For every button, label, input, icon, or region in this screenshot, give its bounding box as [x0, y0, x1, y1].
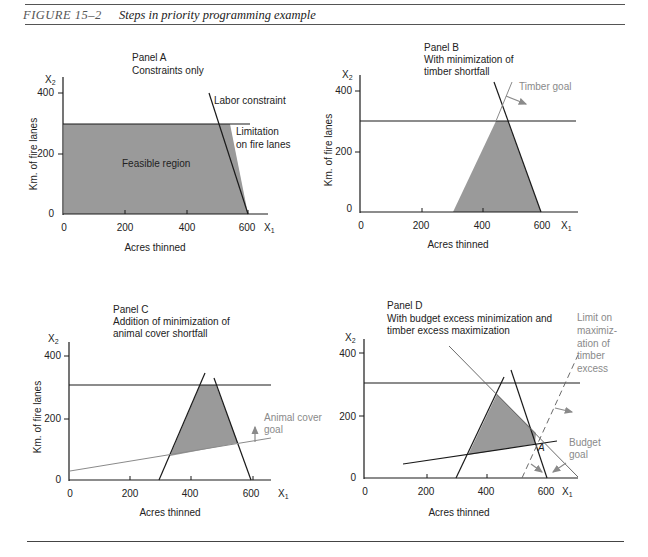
panel-d-subtitle-2: timber excess maximization [387, 325, 510, 336]
svg-text:0: 0 [61, 222, 67, 233]
x-axis-symbol-c: X1 [278, 488, 289, 500]
svg-text:200: 200 [413, 220, 430, 231]
y-axis-label-c: Km. of fire lanes [32, 381, 43, 453]
labor-constraint-label: Labor constraint [214, 95, 286, 106]
budget-goal-line [449, 346, 578, 477]
timber-excess-label-2: maximiz- [577, 325, 617, 336]
fire-lane-limit-label-1: Limitation [236, 126, 279, 137]
panel-d: Panel D With budget excess minimization … [339, 300, 617, 518]
panel-c-title: Panel C [113, 304, 149, 315]
budget-goal-label-1: Budget [569, 437, 601, 448]
svg-text:200: 200 [37, 148, 54, 159]
panel-d-subtitle-1: With budget excess minimization and [387, 313, 552, 324]
budget-goal-arrow-right-icon [553, 463, 566, 472]
svg-text:600: 600 [538, 486, 555, 497]
svg-text:0: 0 [48, 208, 54, 219]
x-axis-symbol-b: X1 [561, 220, 572, 232]
svg-text:200: 200 [44, 413, 61, 424]
feasible-region-a [64, 124, 248, 214]
svg-text:400: 400 [179, 222, 196, 233]
svg-text:400: 400 [474, 220, 491, 231]
feasible-region-label: Feasible region [122, 158, 190, 169]
y-axis-symbol-b: X2 [342, 69, 353, 81]
x-axis-label-c: Acres thinned [139, 507, 200, 518]
feasible-region-b [453, 121, 541, 212]
panel-a: Panel A Constraints only Feasible region… [28, 52, 290, 253]
panel-b-title: Panel B [424, 42, 459, 53]
y-axis-symbol-c: X2 [48, 333, 59, 345]
y-axis-symbol-d: X2 [345, 332, 356, 344]
timber-excess-label-3: ation of [577, 338, 610, 349]
panel-c-subtitle-2: animal cover shortfall [113, 328, 207, 339]
figure-panels: Panel A Constraints only Feasible region… [0, 0, 648, 557]
svg-text:400: 400 [478, 486, 495, 497]
timber-excess-label-1: Limit on [577, 312, 612, 323]
point-a-label: A [537, 442, 545, 453]
svg-text:200: 200 [117, 222, 134, 233]
timber-goal-line-b [496, 82, 512, 121]
panel-a-title: Panel A [132, 52, 167, 63]
timber-excess-arrow-icon [555, 408, 572, 412]
y-axis-symbol-a: X2 [45, 74, 56, 86]
svg-text:400: 400 [335, 85, 352, 96]
y-axis-label-a: Km. of fire lanes [28, 118, 39, 190]
svg-text:400: 400 [182, 488, 199, 499]
svg-text:600: 600 [239, 222, 256, 233]
x-axis-symbol-a: X1 [264, 222, 275, 234]
budget-goal-label-2: goal [569, 449, 588, 460]
svg-text:0: 0 [358, 220, 364, 231]
animal-cover-goal-line [70, 438, 271, 471]
svg-text:0: 0 [55, 474, 61, 485]
svg-text:0: 0 [346, 203, 352, 214]
timber-goal-arrow-icon [506, 96, 526, 104]
panel-b-subtitle-2: timber shortfall [424, 66, 490, 77]
panel-d-title: Panel D [387, 300, 423, 311]
panel-b-subtitle-1: With minimization of [424, 54, 514, 65]
svg-text:600: 600 [243, 488, 260, 499]
svg-text:200: 200 [335, 146, 352, 157]
budget-goal-arrow-left-icon [531, 464, 542, 472]
y-axis-label-b: Km. of fire lanes [323, 114, 334, 186]
timber-excess-label-4: timber [577, 350, 605, 361]
svg-text:0: 0 [362, 486, 368, 497]
x-axis-label-d: Acres thinned [428, 507, 489, 518]
panel-b: Panel B With minimization of timber shor… [323, 42, 578, 250]
svg-text:200: 200 [339, 411, 356, 422]
timber-excess-label-5: excess [577, 363, 608, 374]
animal-cover-goal-label-1: Animal cover [264, 412, 322, 423]
x-axis-symbol-d: X1 [562, 486, 573, 498]
svg-text:0: 0 [67, 488, 73, 499]
x-axis-label-b: Acres thinned [427, 239, 488, 250]
fire-lane-limit-label-2: on fire lanes [236, 139, 290, 150]
animal-cover-goal-label-2: goal [264, 424, 283, 435]
svg-text:400: 400 [339, 348, 356, 359]
figure-bottom-rule [27, 541, 624, 542]
panel-c-subtitle-1: Addition of minimization of [113, 316, 230, 327]
timber-goal-label: Timber goal [519, 81, 571, 92]
x-axis-label-a: Acres thinned [124, 242, 185, 253]
svg-text:200: 200 [122, 488, 139, 499]
panel-a-subtitle: Constraints only [132, 65, 204, 76]
svg-text:400: 400 [44, 350, 61, 361]
svg-text:600: 600 [534, 220, 551, 231]
svg-text:0: 0 [350, 472, 356, 483]
panel-c: Panel C Addition of minimization of anim… [32, 304, 322, 518]
svg-text:200: 200 [418, 486, 435, 497]
svg-text:400: 400 [37, 87, 54, 98]
